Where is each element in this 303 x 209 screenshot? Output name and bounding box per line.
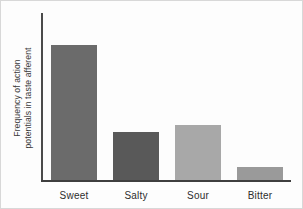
- bar-slot-salty: [105, 13, 167, 180]
- bar-salty: [113, 132, 159, 180]
- x-tick-label-salty: Salty: [124, 190, 147, 201]
- y-axis-label: Frequency of action potentials in taste …: [8, 14, 38, 182]
- y-axis-label-line-2: potentials in taste afferent: [23, 47, 34, 148]
- x-tick-slot-sweet: Sweet: [43, 185, 105, 203]
- x-tick-slot-bitter: Bitter: [229, 185, 291, 203]
- x-axis-tick-labels: Sweet Salty Sour Bitter: [43, 185, 291, 203]
- bar-chart-figure: Frequency of action potentials in taste …: [0, 0, 303, 209]
- bar-series: [43, 13, 291, 180]
- x-tick-slot-sour: Sour: [167, 185, 229, 203]
- x-tick-label-bitter: Bitter: [248, 190, 273, 201]
- x-tick-label-sweet: Sweet: [60, 190, 89, 201]
- bar-slot-sour: [167, 13, 229, 180]
- x-axis-line: [41, 180, 291, 182]
- plot-area: [43, 13, 291, 180]
- x-tick-label-sour: Sour: [187, 190, 209, 201]
- x-tick-slot-salty: Salty: [105, 185, 167, 203]
- bar-slot-bitter: [229, 13, 291, 180]
- bar-sweet: [51, 45, 97, 180]
- bar-sour: [175, 125, 221, 180]
- y-axis-label-line-1: Frequency of action: [12, 47, 23, 148]
- y-axis-label-text: Frequency of action potentials in taste …: [12, 47, 34, 148]
- bar-bitter: [237, 167, 283, 180]
- bar-slot-sweet: [43, 13, 105, 180]
